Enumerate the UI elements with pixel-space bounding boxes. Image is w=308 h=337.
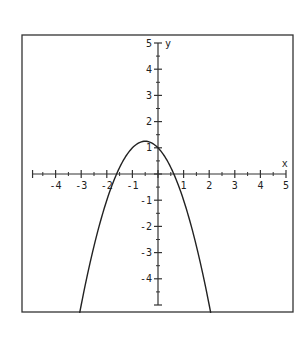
x-tick-label: 2 — [206, 180, 212, 191]
x-tick-label: 1 — [181, 180, 187, 191]
y-axis-label: y — [165, 38, 171, 49]
x-tick-label: -3 — [75, 180, 87, 191]
x-tick-label: -1 — [126, 180, 138, 191]
y-tick-label: 1 — [146, 142, 152, 153]
y-tick-label: 2 — [146, 116, 152, 127]
x-tick-label: 5 — [283, 180, 289, 191]
x-tick-label: 3 — [232, 180, 238, 191]
y-tick-label: 3 — [146, 90, 152, 101]
y-tick-label: -1 — [140, 195, 152, 206]
x-tick-label: -4 — [50, 180, 62, 191]
tick-labels: -4-3-2-11234554321-1-2-3-4 — [50, 38, 289, 285]
y-tick-label: -2 — [140, 221, 152, 232]
parabola-chart: -4-3-2-11234554321-1-2-3-4 x y — [0, 0, 308, 337]
y-tick-label: 4 — [146, 64, 152, 75]
x-axis-label: x — [282, 158, 288, 169]
y-tick-label: -3 — [140, 247, 152, 258]
y-tick-label: 5 — [146, 38, 152, 49]
y-tick-label: -4 — [140, 273, 152, 284]
x-tick-label: 4 — [257, 180, 263, 191]
